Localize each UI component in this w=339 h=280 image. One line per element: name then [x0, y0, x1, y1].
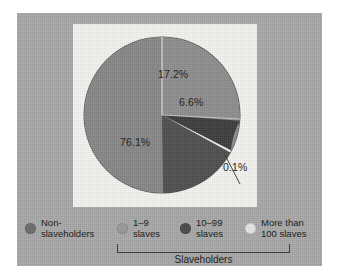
- legend-label-1-9-slaves: 1–9 slaves: [133, 217, 160, 239]
- legend-item-1-9-slaves: 1–9 slaves: [117, 217, 160, 239]
- legend-item-non-slaveholders: Non- slaveholders: [25, 217, 94, 239]
- legend-label-more-than-100-slaves: More than 100 slaves: [261, 217, 306, 239]
- pie-label-more-than-100-slaves: 0.1%: [223, 161, 247, 173]
- legend-item-10-99-slaves: 10–99 slaves: [180, 217, 223, 239]
- legend-swatch-non-slaveholders: [25, 223, 36, 234]
- slice-non-slaveholders: [82, 37, 163, 193]
- plot-area: 17.2% 6.6% 76.1% 0.1%: [73, 24, 257, 207]
- legend-swatch-more-than-100-slaves: [245, 223, 256, 234]
- pie-label-1-9-slaves: 17.2%: [158, 68, 188, 80]
- legend-swatch-10-99-slaves: [180, 223, 191, 234]
- legend-label-non-slaveholders: Non- slaveholders: [41, 217, 94, 239]
- pie-label-10-99-slaves: 6.6%: [179, 96, 203, 108]
- chart-panel: 17.2% 6.6% 76.1% 0.1% Non- slaveholders …: [17, 13, 322, 266]
- legend-swatch-1-9-slaves: [117, 223, 128, 234]
- legend: Non- slaveholders 1–9 slaves 10–99 slave…: [17, 214, 322, 248]
- legend-label-10-99-slaves: 10–99 slaves: [196, 217, 223, 239]
- figure-root: 17.2% 6.6% 76.1% 0.1% Non- slaveholders …: [0, 0, 339, 280]
- pie-chart: 17.2% 6.6% 76.1% 0.1%: [73, 24, 257, 207]
- slaveholders-bracket: [117, 244, 290, 253]
- legend-item-more-than-100-slaves: More than 100 slaves: [245, 217, 306, 239]
- pie-svg: [73, 24, 257, 207]
- slaveholders-caption: Slaveholders: [117, 254, 290, 265]
- pie-label-non-slaveholders: 76.1%: [120, 136, 150, 148]
